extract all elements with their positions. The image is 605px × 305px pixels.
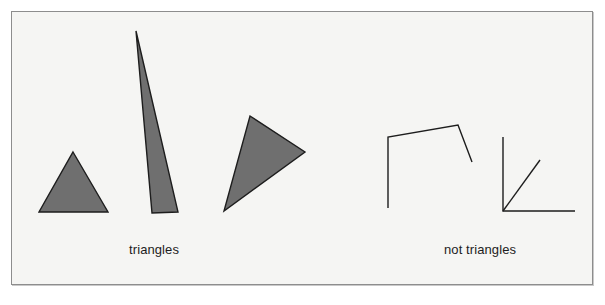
triangles-label: triangles <box>129 243 179 256</box>
diagonal-ray-shape <box>503 160 540 211</box>
rotated-scalene-triangle-shape <box>224 116 305 211</box>
open-quadrilateral-polyline-shape <box>388 125 472 208</box>
figure-root: triangles not triangles <box>0 0 605 305</box>
figure-drawing-canvas <box>0 0 605 305</box>
not-triangles-group <box>388 125 575 211</box>
right-angle-corner-shape <box>503 137 575 211</box>
equilateral-triangle-shape <box>39 152 108 212</box>
sliver-triangle-shape <box>136 31 178 213</box>
not-triangles-label: not triangles <box>444 243 516 256</box>
triangles-group <box>39 31 305 213</box>
